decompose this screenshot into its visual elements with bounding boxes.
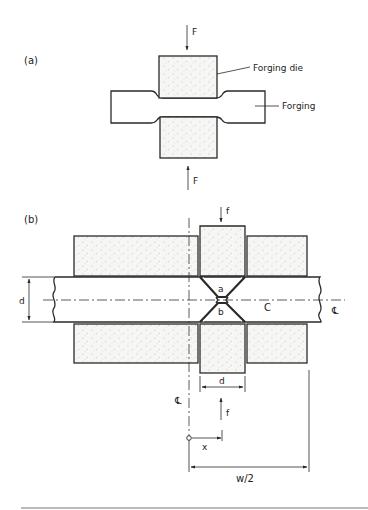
half-width-label: w/2	[236, 473, 254, 484]
upper-right-die	[247, 236, 307, 276]
die-width-label: d	[219, 376, 225, 386]
region-c-label: C	[264, 302, 271, 313]
die-callout-label: Forging die	[253, 63, 304, 73]
panel-a: (a) F Forging die Forging F	[24, 25, 316, 190]
panel-b-label: (b)	[24, 214, 38, 225]
forging-callout-label: Forging	[282, 101, 316, 111]
horizontal-centerline-symbol-icon: ℄	[331, 305, 339, 316]
panel-a-label: (a)	[24, 55, 38, 66]
upper-left-die	[74, 236, 198, 276]
plate-bar	[53, 277, 321, 322]
force-f-bottom-label: f	[226, 408, 230, 418]
upper-center-die	[200, 226, 245, 276]
x-label: x	[202, 442, 208, 452]
thickness-label: d	[19, 296, 25, 306]
region-a-label: a	[218, 284, 224, 294]
upper-forging-die	[159, 56, 217, 98]
forging-diagram: (a) F Forging die Forging F (b) f	[0, 0, 368, 510]
vertical-centerline-symbol-icon: ℄	[174, 395, 182, 406]
lower-center-die	[200, 324, 245, 373]
lower-left-die	[74, 324, 198, 363]
force-bottom-label: F	[193, 176, 198, 186]
lower-forging-die	[160, 117, 217, 158]
region-b-label: b	[218, 307, 224, 317]
die-leader-line	[217, 67, 250, 74]
panel-b: (b) f a b C ℄ ℄	[19, 206, 345, 484]
origin-point-icon	[187, 436, 192, 441]
force-f-top-label: f	[226, 206, 230, 216]
force-top-label: F	[192, 27, 197, 37]
lower-right-die	[247, 324, 307, 363]
